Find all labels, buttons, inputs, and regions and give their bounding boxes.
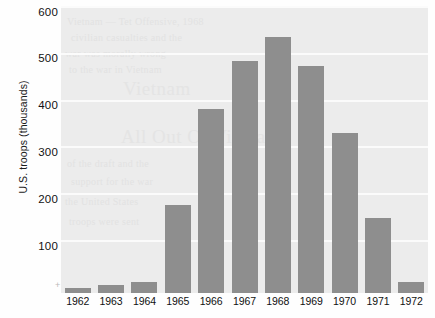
ghost-text: of the draft and the [67,158,149,169]
bar [365,218,391,293]
ghost-text: to the war in Vietnam [69,64,162,75]
x-tick-label: 1970 [328,295,361,307]
ghost-text: the United States [65,196,138,207]
gridline [61,6,428,8]
bar [98,285,124,293]
ghost-text: troops were sent [69,216,139,227]
y-tick-label: 300 [38,147,58,158]
bar [398,282,424,293]
y-tick-label: 100 [38,241,58,252]
x-axis-tick-labels: 1962196319641965196619671968196919701971… [61,295,428,315]
x-tick-label: 1969 [295,295,328,307]
x-tick-label: 1972 [395,295,428,307]
bar [198,109,224,293]
x-tick-label: 1966 [194,295,227,307]
x-tick-label: 1971 [361,295,394,307]
y-tick-label: 400 [38,100,58,111]
bar [131,282,157,293]
bar [265,37,291,293]
ghost-text: Vietnam [123,78,191,100]
ghost-text: support for the war [71,176,153,187]
gridline [61,53,428,55]
y-tick-label: 200 [38,194,58,205]
bar [165,205,191,293]
x-tick-label: 1968 [261,295,294,307]
bar [232,61,258,293]
bar [332,133,358,293]
x-tick-label: 1964 [128,295,161,307]
x-tick-label: 1965 [161,295,194,307]
y-tick-label: 600 [38,7,58,18]
y-axis-tick-labels: 600 500 400 300 200 100 [24,0,58,318]
bar [298,66,324,293]
plot-area: Vietnam — Tet Offensive, 1968 civilian c… [61,6,428,293]
bar [65,288,91,293]
x-tick-label: 1963 [94,295,127,307]
x-tick-label: 1967 [228,295,261,307]
x-tick-label: 1962 [61,295,94,307]
ghost-text: civilian casualties and the [71,32,182,43]
bar-chart: U.S. troops (thousands) 600 500 400 300 … [0,0,435,318]
y-tick-label: 500 [38,53,58,64]
origin-tick-mark: + [55,283,60,288]
ghost-text: Vietnam — Tet Offensive, 1968 [67,16,204,27]
